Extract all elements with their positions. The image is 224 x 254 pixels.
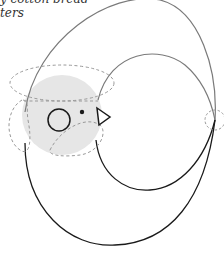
inner-gray-curve [98,54,215,120]
beak-triangle [97,108,110,125]
pupil-dot [80,110,84,114]
bird-bezier-diagram [0,0,224,254]
inner-black-curve [96,120,215,190]
head-fill [22,75,102,155]
